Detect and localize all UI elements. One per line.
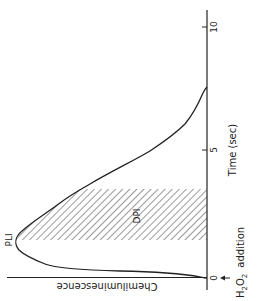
h2o2-arrow-icon bbox=[220, 276, 230, 281]
tick-label-0: 0 bbox=[209, 275, 219, 281]
x-axis-title: Time (sec) bbox=[227, 124, 238, 177]
chemiluminescence-chart: 10 5 0 Time (sec) Chemiluminescence PLI … bbox=[0, 0, 262, 301]
tick-label-10: 10 bbox=[209, 21, 219, 33]
tick-label-5: 5 bbox=[209, 147, 219, 153]
dpi-label: DPI bbox=[132, 208, 142, 223]
h2o2-addition-label: H2O2addition bbox=[235, 227, 249, 298]
chemiluminescence-curve bbox=[16, 87, 207, 278]
pli-label: PLI bbox=[4, 233, 14, 246]
y-axis-title: Chemiluminescence bbox=[57, 281, 158, 292]
